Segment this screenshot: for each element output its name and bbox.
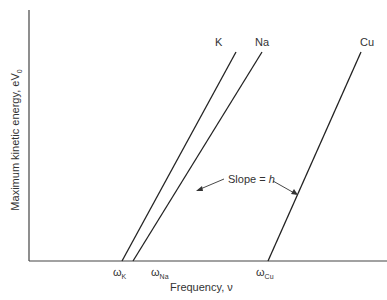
svg-text:ωCu: ωCu	[256, 266, 274, 280]
svg-text:ωK: ωK	[113, 266, 127, 280]
arrow-left-head	[196, 186, 203, 191]
threshold-na: ωNa	[151, 266, 169, 280]
line-cu	[268, 52, 361, 261]
line-na	[133, 52, 262, 261]
photoelectric-diagram: K Na Cu ωK ωNa ωCu Frequency, ν Maximum …	[0, 0, 387, 300]
label-cu: Cu	[360, 36, 374, 48]
svg-text:ωNa: ωNa	[151, 266, 169, 280]
y-axis-label: Maximum kinetic energy, eV0	[9, 69, 23, 210]
slope-annotation: Slope = h	[196, 173, 298, 195]
label-na: Na	[255, 36, 270, 48]
label-k: K	[215, 36, 223, 48]
threshold-k: ωK	[113, 266, 127, 280]
x-axis-label: Frequency, ν	[170, 281, 233, 293]
threshold-cu: ωCu	[256, 266, 274, 280]
svg-text:Maximum kinetic energy, eV0: Maximum kinetic energy, eV0	[9, 69, 23, 210]
line-k	[122, 52, 236, 261]
svg-text:Slope = h: Slope = h	[228, 173, 275, 185]
